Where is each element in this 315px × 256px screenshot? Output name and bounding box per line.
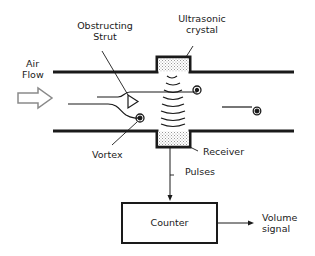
vortex-label: Vortex [92,149,123,160]
pulses-label: Pulses [185,166,215,177]
ultrasonic-waves [161,76,185,127]
arrow-down-icon [168,195,173,201]
air-flow-label: Air Flow [22,58,44,80]
duct-top-wall [53,57,294,72]
counter-label: Counter [122,217,217,228]
vortex-icon [253,107,261,115]
vortex-icon [193,86,201,94]
flow-streamlines [68,92,252,118]
duct-bottom-wall [53,131,294,147]
receiver-label: Receiver [203,146,244,157]
volume-signal-label: Volume signal [262,212,297,234]
air-flow-arrow-icon [18,88,52,108]
obstructing-strut-label: Obstructing Strut [72,20,138,42]
ultrasonic-crystal [158,59,189,72]
pulses-connector [168,147,173,201]
ultrasonic-crystal-label: Ultrasonic crystal [172,13,232,35]
volume-signal-connector [217,221,254,226]
obstructing-strut [128,95,138,108]
arrow-right-icon [248,221,254,226]
receiver [158,132,189,146]
